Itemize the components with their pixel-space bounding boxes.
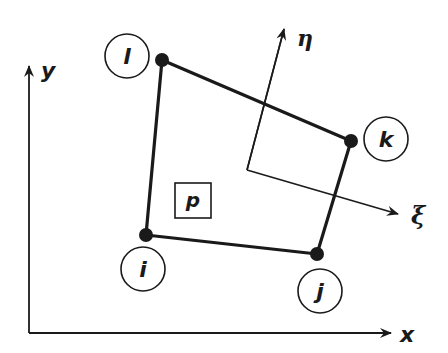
- quadrilateral-element: [146, 60, 351, 254]
- node-k-label: k: [379, 127, 395, 152]
- xi-axis-line: [247, 170, 398, 214]
- element-label: p: [175, 183, 211, 218]
- node-j-dot: [310, 247, 324, 261]
- node-i-label: i: [139, 257, 147, 282]
- element-label-text: p: [185, 188, 200, 212]
- node-i-dot: [139, 228, 153, 242]
- eta-axis-label: η: [297, 25, 313, 51]
- element-diagram-svg: y x η ξ p i: [0, 0, 448, 353]
- diagram-canvas: y x η ξ p i: [0, 0, 448, 353]
- xi-axis-label: ξ: [411, 201, 427, 230]
- x-axis-label: x: [399, 322, 415, 347]
- node-k-dot: [344, 134, 358, 148]
- y-axis-label: y: [41, 58, 57, 83]
- node-l-label: l: [123, 44, 131, 69]
- element-edges: [146, 60, 351, 254]
- node-l-dot: [155, 53, 169, 67]
